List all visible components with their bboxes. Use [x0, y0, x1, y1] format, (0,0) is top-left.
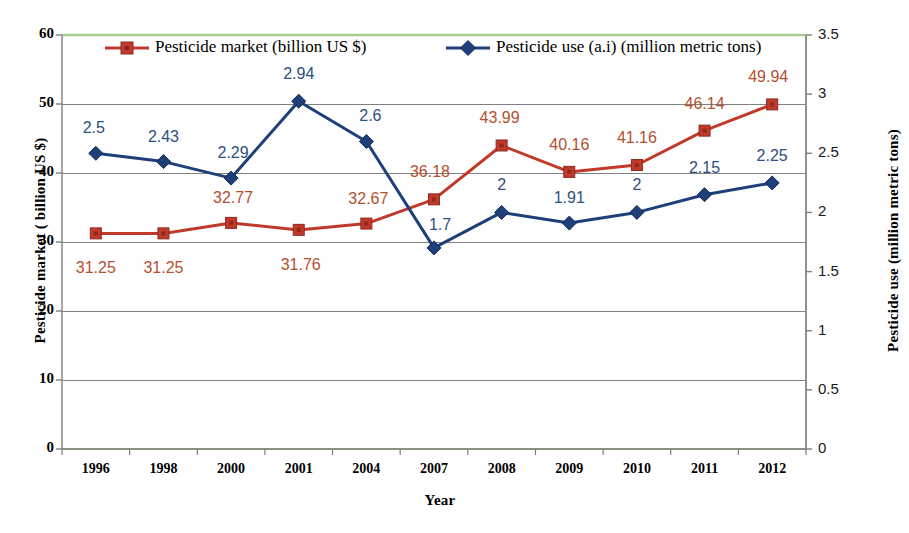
y-axis-right-tick: 2: [818, 202, 878, 219]
y-axis-left-tick: 40: [8, 163, 54, 180]
data-label-use: 2.15: [670, 159, 740, 177]
data-label-market: 31.25: [61, 259, 131, 277]
data-label-market: 32.67: [333, 190, 403, 208]
x-axis-tick: 1998: [128, 461, 198, 477]
data-label-market: 40.16: [534, 136, 604, 154]
y-axis-right-tick: 2.5: [818, 143, 878, 160]
y-axis-right-tick: 1: [818, 321, 878, 338]
pesticide-chart: Pesticide market (billion US $) Pesticid…: [0, 0, 909, 533]
x-axis-tick: 2008: [467, 461, 537, 477]
data-label-market: 41.16: [602, 129, 672, 147]
y-axis-left-tick: 20: [8, 301, 54, 318]
y-axis-right-tick: 3: [818, 84, 878, 101]
x-axis-tick: 2000: [196, 461, 266, 477]
data-label-market: 32.77: [198, 189, 268, 207]
data-label-use: 2.29: [198, 144, 268, 162]
y-axis-right-title: Pesticide use (million metric tons): [885, 41, 902, 441]
y-axis-left-tick: 10: [8, 370, 54, 387]
x-axis-tick: 2007: [399, 461, 469, 477]
data-label-use: 2: [467, 176, 537, 194]
data-label-market: 31.25: [128, 259, 198, 277]
x-axis-tick: 2011: [670, 461, 740, 477]
data-label-use: 2.94: [264, 65, 334, 83]
legend-item-pesticide-use: Pesticide use (a.i) (million metric tons…: [496, 37, 761, 57]
data-label-use: 2: [602, 176, 672, 194]
x-axis-tick: 2009: [534, 461, 604, 477]
y-axis-left-tick: 0: [8, 439, 54, 456]
data-label-use: 2.25: [737, 147, 807, 165]
data-label-use: 1.7: [405, 216, 475, 234]
data-label-market: 43.99: [465, 109, 535, 127]
data-label-use: 2.6: [335, 107, 405, 125]
data-label-use: 1.91: [534, 189, 604, 207]
y-axis-right-tick: 1.5: [818, 262, 878, 279]
x-axis-tick: 2004: [331, 461, 401, 477]
data-label-use: 2.43: [128, 128, 198, 146]
data-label-market: 49.94: [733, 68, 803, 86]
y-axis-left-tick: 30: [8, 232, 54, 249]
y-axis-left-tick: 60: [8, 25, 54, 42]
legend-item-pesticide-market: Pesticide market (billion US $): [155, 37, 367, 57]
y-axis-right-tick: 0.5: [818, 380, 878, 397]
x-axis-tick: 2012: [737, 461, 807, 477]
data-label-market: 46.14: [670, 95, 740, 113]
data-label-market: 36.18: [395, 163, 465, 181]
x-axis-tick: 1996: [61, 461, 131, 477]
y-axis-left-tick: 50: [8, 94, 54, 111]
data-label-market: 31.76: [266, 256, 336, 274]
x-axis-tick: 2010: [602, 461, 672, 477]
y-axis-right-tick: 0: [818, 439, 878, 456]
x-axis-tick: 2001: [264, 461, 334, 477]
x-axis-title: Year: [0, 492, 880, 509]
y-axis-right-tick: 3.5: [818, 25, 878, 42]
data-label-use: 2.5: [59, 119, 129, 137]
